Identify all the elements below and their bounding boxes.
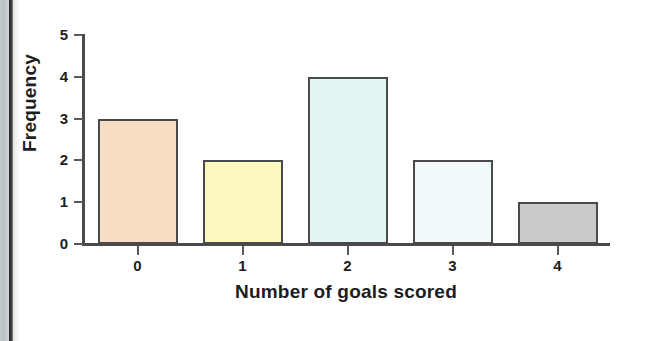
- bar: [98, 119, 178, 244]
- x-tick-mark: [242, 246, 244, 255]
- bar: [413, 160, 493, 244]
- x-tick-label: 0: [113, 258, 163, 273]
- x-tick-label: 2: [323, 258, 373, 273]
- x-tick-label: 4: [533, 258, 583, 273]
- y-axis-title: Frequency: [19, 18, 41, 188]
- y-tick-label: 1: [38, 194, 68, 209]
- y-tick-label: 3: [38, 111, 68, 126]
- y-tick-label: 0: [38, 236, 68, 251]
- y-tick-mark: [74, 34, 83, 36]
- x-tick-mark: [347, 246, 349, 255]
- bar: [518, 202, 598, 244]
- y-axis-line: [82, 34, 85, 246]
- y-tick-mark: [74, 159, 83, 161]
- x-tick-label: 3: [428, 258, 478, 273]
- y-tick-mark: [74, 76, 83, 78]
- x-axis-title: Number of goals scored: [82, 281, 610, 303]
- y-tick-mark: [74, 201, 83, 203]
- bar: [308, 77, 388, 244]
- y-tick-mark: [74, 243, 83, 245]
- x-tick-mark: [557, 246, 559, 255]
- bar: [203, 160, 283, 244]
- x-tick-mark: [452, 246, 454, 255]
- y-tick-label: 4: [38, 69, 68, 84]
- bar-chart: 012345 01234 Frequency Number of goals s…: [0, 0, 654, 341]
- x-tick-mark: [137, 246, 139, 255]
- y-tick-label: 2: [38, 152, 68, 167]
- y-tick-label: 5: [38, 27, 68, 42]
- y-tick-mark: [74, 118, 83, 120]
- x-tick-label: 1: [218, 258, 268, 273]
